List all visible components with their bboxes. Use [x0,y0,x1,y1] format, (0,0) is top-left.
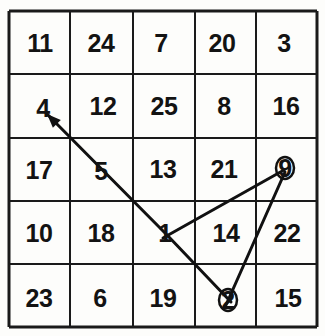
cell-number-r4-c1: 6 [93,286,106,311]
cell-number-r2-c1: 5 [94,159,107,184]
cell-number-r0-c2: 7 [154,31,167,56]
cell-number-r1-c0: 4 [36,96,49,121]
cell-number-r4-c3: 2 [221,288,234,313]
cell-number-r3-c0: 10 [26,221,53,246]
cell-number-r1-c1: 12 [90,94,117,119]
cell-number-r3-c1: 18 [88,221,115,246]
cell-number-r2-c4: 9 [278,156,291,181]
cell-number-r2-c2: 13 [150,157,177,182]
cell-number-r2-c0: 17 [26,158,53,183]
cell-number-r4-c0: 23 [26,286,53,311]
cell-number-r0-c4: 3 [277,31,290,56]
cell-number-r0-c1: 24 [88,31,115,56]
number-grid-figure: 1124720341225816175132191018114222361921… [0,0,325,336]
cell-number-r0-c0: 11 [27,31,52,56]
cell-number-r4-c4: 15 [275,286,302,311]
cell-number-r1-c2: 25 [151,94,178,119]
cell-number-r2-c3: 21 [211,157,238,182]
cell-number-r1-c4: 16 [273,94,300,119]
cell-number-r3-c2: 1 [158,221,171,246]
cell-number-r3-c4: 22 [274,221,301,246]
cell-number-r1-c3: 8 [217,94,230,119]
cell-number-r0-c3: 20 [209,31,236,56]
cell-number-r4-c2: 19 [150,286,177,311]
cell-number-r3-c3: 14 [213,221,240,246]
